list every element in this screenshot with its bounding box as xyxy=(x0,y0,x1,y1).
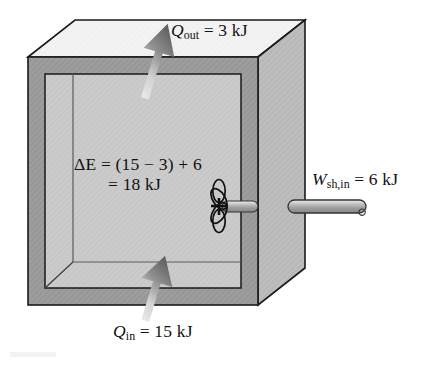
symbol-q-out: Q xyxy=(171,20,184,40)
value-qout: 3 xyxy=(218,20,227,40)
value-wsh: 6 xyxy=(369,169,378,189)
energy-change-line1: ΔE = (15 − 3) + 6 xyxy=(74,154,202,174)
label-heat-out: Qout = 3 kJ xyxy=(171,21,248,43)
tank-right-face xyxy=(258,20,305,305)
subscript-in: in xyxy=(126,329,135,343)
label-shaft-work-in: Wsh,in = 6 kJ xyxy=(312,170,398,192)
equals-sign-qin: = xyxy=(140,321,150,341)
energy-change-line2: = 18 kJ xyxy=(74,175,202,195)
unit-wsh: kJ xyxy=(382,169,398,189)
plate-footer-mark xyxy=(10,352,56,357)
symbol-q-in: Q xyxy=(113,321,126,341)
shaft-external xyxy=(288,200,366,215)
label-energy-change: ΔE = (15 − 3) + 6 = 18 kJ xyxy=(74,155,202,194)
label-heat-in: Qin = 15 kJ xyxy=(113,322,193,344)
figure-canvas: Qout = 3 kJ Qin = 15 kJ Wsh,in = 6 kJ ΔE… xyxy=(0,0,438,365)
subscript-out: out xyxy=(184,28,199,42)
symbol-w-sh: W xyxy=(312,169,327,189)
unit-qout: kJ xyxy=(232,20,248,40)
subscript-sh-in: sh,in xyxy=(327,177,350,191)
equals-sign-qout: = xyxy=(204,20,214,40)
unit-qin: kJ xyxy=(177,321,193,341)
value-qin: 15 xyxy=(154,321,172,341)
equals-sign-wsh: = xyxy=(354,169,364,189)
